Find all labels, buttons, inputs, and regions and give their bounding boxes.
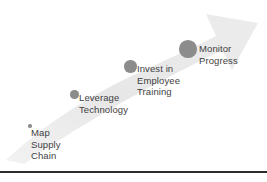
milestone-dot-icon: [179, 40, 197, 58]
bottom-divider: [0, 171, 267, 173]
milestone-dot-icon: [70, 90, 79, 99]
diagram-canvas: Map Supply Chain Leverage Technology Inv…: [0, 0, 267, 182]
milestone-dot-icon: [124, 60, 137, 73]
step-label: Monitor Progress: [199, 43, 238, 66]
step-label: Invest in Employee Training: [137, 63, 180, 98]
step-label: Leverage Technology: [79, 92, 128, 115]
step-label: Map Supply Chain: [31, 127, 61, 162]
